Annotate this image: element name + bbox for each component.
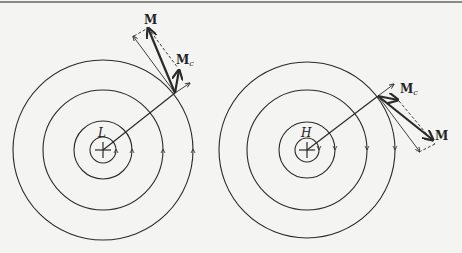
dashed-component	[399, 101, 435, 144]
cyclone-anticyclone-diagram: L M Mc H M Mc	[0, 0, 462, 253]
label-M: M	[144, 13, 157, 27]
center-label-H: H	[300, 126, 312, 140]
label-M: M	[435, 129, 448, 143]
dashed-component	[134, 28, 148, 36]
vector-tangent	[378, 84, 394, 96]
vector-M	[148, 28, 175, 93]
radius-line	[307, 96, 378, 150]
label-Mc: Mc	[176, 53, 194, 68]
vector-Mc	[175, 70, 179, 93]
label-Mc: Mc	[400, 82, 418, 97]
center-label-L: L	[97, 126, 106, 140]
dashed-component	[421, 144, 435, 151]
